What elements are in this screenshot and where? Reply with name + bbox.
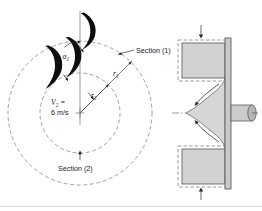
diagram-canvas: α1 r1 r2 V2 = 6 m/s Section (1) Section … (0, 0, 262, 211)
inlet-arrow-top (199, 25, 203, 39)
label-v2-line2: 6 m/s (51, 108, 69, 117)
label-section-1: Section (1) (136, 46, 171, 55)
plan-view-impeller: α1 r1 r2 V2 = 6 m/s Section (1) Section … (8, 11, 171, 185)
shroud-block-bottom (182, 149, 225, 184)
figure-container: α1 r1 r2 V2 = 6 m/s Section (1) Section … (0, 0, 262, 211)
blade-3 (45, 46, 62, 90)
blade-1 (81, 13, 96, 51)
section-2-callout: Section (2) (58, 151, 93, 173)
cross-section-view (172, 25, 258, 200)
label-section-2: Section (2) (58, 164, 93, 173)
label-r1: r1 (113, 69, 119, 79)
label-r2: r2 (91, 91, 97, 101)
inlet-arrow-bottom (199, 187, 203, 200)
hub-backplate-wall (225, 38, 231, 189)
label-v2-line1: V2 = (51, 98, 65, 108)
impeller-blades (45, 13, 96, 90)
label-alpha1: α1 (63, 52, 70, 62)
shroud-block-top (182, 43, 225, 78)
section-1-callout: Section (1) (118, 46, 171, 55)
flow-passage-body (186, 78, 225, 148)
